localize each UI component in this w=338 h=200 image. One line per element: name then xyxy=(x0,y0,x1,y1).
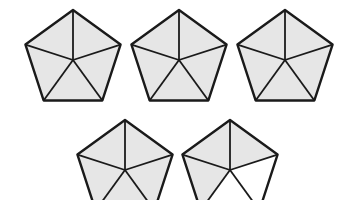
pentagon-figure xyxy=(0,0,338,200)
pentagon-2 xyxy=(131,10,226,100)
pentagon-4 xyxy=(77,120,172,200)
pentagon-1 xyxy=(25,10,120,100)
pentagon-5 xyxy=(182,120,277,200)
pentagon-3 xyxy=(237,10,332,100)
